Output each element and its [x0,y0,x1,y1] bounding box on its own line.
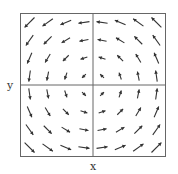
x-axis-label: x [90,160,97,173]
vector-field-plot: x y [0,0,178,174]
y-axis-label: y [6,79,14,92]
